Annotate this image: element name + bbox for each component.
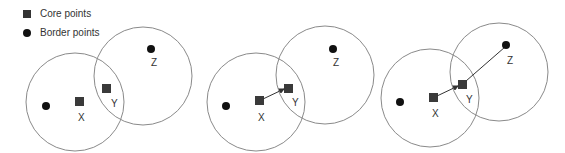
core-point-y <box>458 80 467 89</box>
border-point <box>396 98 404 106</box>
border-point-z <box>502 41 510 49</box>
core-point-x <box>429 93 438 102</box>
label-z: Z <box>507 55 513 66</box>
line-y-to-z <box>466 47 505 81</box>
border-point-z <box>329 45 337 53</box>
label-y: Y <box>466 94 473 105</box>
core-point-y <box>284 84 293 93</box>
neighborhood-circle-y <box>276 26 374 124</box>
neighborhood-circle-y <box>94 27 192 125</box>
border-point <box>222 102 230 110</box>
label-x: X <box>432 108 439 119</box>
label-x: X <box>78 112 85 123</box>
dbscan-diagram: X Y Z X Y Z X Y Z <box>0 0 565 153</box>
neighborhood-circle-y <box>450 23 548 121</box>
core-point-x <box>75 97 84 106</box>
arrow-x-to-y <box>437 86 458 96</box>
core-point-y <box>102 84 111 93</box>
label-z: Z <box>151 57 157 68</box>
panel-2: X Y Z <box>207 26 374 151</box>
label-z: Z <box>333 57 339 68</box>
label-x: X <box>258 112 265 123</box>
panel-3: X Y Z <box>381 23 548 147</box>
label-y: Y <box>111 98 118 109</box>
border-point <box>42 102 50 110</box>
panel-1: X Y Z <box>26 27 192 151</box>
border-point-z <box>147 45 155 53</box>
arrow-x-to-y <box>263 89 284 99</box>
label-y: Y <box>292 97 299 108</box>
core-point-x <box>255 96 264 105</box>
